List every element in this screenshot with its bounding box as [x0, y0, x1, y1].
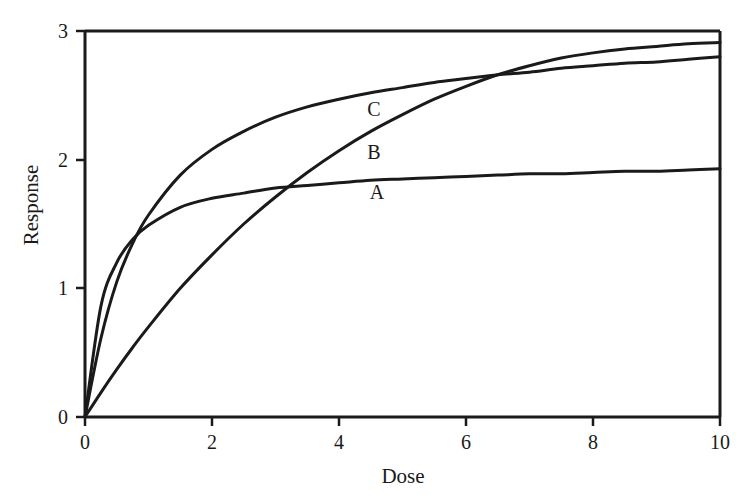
data-curves: [85, 43, 720, 417]
chart-canvas: [0, 0, 756, 499]
curve-label-C: C: [367, 99, 380, 119]
y-tick-label-0: 0: [58, 407, 68, 427]
curve-A: [85, 169, 720, 417]
x-tick-label-0: 0: [80, 432, 90, 452]
curve-B: [85, 43, 720, 417]
x-tick-label-2: 2: [207, 432, 217, 452]
curve-C: [85, 57, 720, 417]
y-axis-title: Response: [21, 165, 42, 246]
curve-label-B: B: [367, 142, 380, 162]
curve-label-A: A: [370, 182, 384, 202]
x-axis-title: Dose: [381, 466, 424, 487]
y-tick-label-3: 3: [58, 21, 68, 41]
y-tick-label-2: 2: [58, 150, 68, 170]
x-tick-label-8: 8: [588, 432, 598, 452]
dose-response-figure: 0 2 4 6 8 10 0 1 2 3 Dose Response C B A: [0, 0, 756, 499]
x-tick-label-4: 4: [334, 432, 344, 452]
y-tick-label-1: 1: [58, 278, 68, 298]
x-tick-label-6: 6: [461, 432, 471, 452]
x-tick-label-10: 10: [710, 432, 730, 452]
